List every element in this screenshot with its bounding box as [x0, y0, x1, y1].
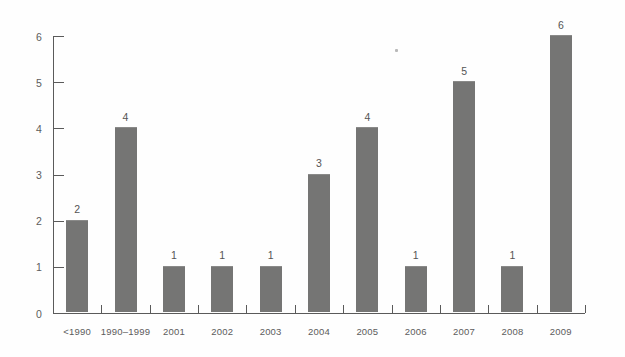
bar-value-label: 4	[123, 112, 129, 123]
bar[interactable]	[260, 266, 282, 312]
x-axis-tick	[198, 305, 199, 313]
x-axis-category-label: 2005	[356, 326, 378, 337]
bar-group[interactable]: 1	[163, 266, 185, 312]
bar-group[interactable]: 1	[501, 266, 523, 312]
x-axis-tick	[488, 305, 489, 313]
bar[interactable]	[163, 266, 185, 312]
x-axis-tick	[150, 305, 151, 313]
y-axis-tick-label-2: 2	[36, 215, 42, 227]
scan-speck-artifact	[395, 49, 398, 52]
bar[interactable]	[356, 127, 378, 312]
y-axis-tick-label-6: 6	[36, 31, 42, 43]
x-axis-category-label: 2001	[163, 326, 185, 337]
bar-group[interactable]: 2	[66, 220, 88, 312]
bar-group[interactable]: 1	[260, 266, 282, 312]
bar-value-label: 1	[219, 250, 225, 261]
bar-group[interactable]: 3	[308, 174, 330, 313]
y-axis-tick-label-3: 3	[36, 169, 42, 181]
x-axis-tick	[101, 305, 102, 313]
x-axis-category-label: 2009	[550, 326, 572, 337]
y-axis-tick-1: 1	[54, 267, 64, 268]
y-axis-tick-2: 2	[54, 221, 64, 222]
y-axis-tick-label-0: 0	[36, 308, 42, 320]
x-axis-category-label: 2002	[211, 326, 233, 337]
bar[interactable]	[115, 127, 137, 312]
bar-group[interactable]: 4	[115, 127, 137, 312]
x-axis-tick	[392, 305, 393, 313]
y-axis-tick-3: 3	[54, 175, 64, 176]
x-axis-tick	[295, 305, 296, 313]
plot-area: 6 5 4 3 2 1 0 24111341516	[53, 36, 585, 313]
bar[interactable]	[66, 220, 88, 312]
bar-group[interactable]: 5	[453, 81, 475, 312]
x-axis-category-label: 2008	[501, 326, 523, 337]
bar[interactable]	[550, 35, 572, 312]
bar-value-label: 1	[171, 250, 177, 261]
bar-value-label: 1	[413, 250, 419, 261]
x-axis-category-label: 2003	[260, 326, 282, 337]
y-axis-tick-label-5: 5	[36, 77, 42, 89]
x-axis-category-label: 1990–1999	[101, 326, 150, 337]
x-axis-tick	[246, 305, 247, 313]
x-axis-category-label: <1990	[63, 326, 91, 337]
x-axis-category-label: 2006	[405, 326, 427, 337]
x-axis-tick	[440, 305, 441, 313]
bar-chart-figure: 6 5 4 3 2 1 0 24111341516 <19901990–1999…	[0, 0, 625, 357]
bar[interactable]	[501, 266, 523, 312]
bar-value-label: 4	[364, 112, 370, 123]
bar[interactable]	[211, 266, 233, 312]
bar-value-label: 6	[558, 20, 564, 31]
x-axis-tick	[537, 305, 538, 313]
bar-value-label: 2	[74, 204, 80, 215]
bar-group[interactable]: 1	[211, 266, 233, 312]
x-axis-category-label: 2007	[453, 326, 475, 337]
bar-value-label: 5	[461, 66, 467, 77]
x-axis-line	[53, 313, 585, 314]
bar-group[interactable]: 1	[405, 266, 427, 312]
y-axis-tick-5: 5	[54, 82, 64, 83]
bar-value-label: 3	[316, 158, 322, 169]
y-axis-tick-label-1: 1	[36, 261, 42, 273]
x-axis-tick	[585, 305, 586, 313]
y-axis-tick-4: 4	[54, 128, 64, 129]
x-axis-tick	[343, 305, 344, 313]
bar[interactable]	[453, 81, 475, 312]
bar-group[interactable]: 4	[356, 127, 378, 312]
bar[interactable]	[405, 266, 427, 312]
bar-value-label: 1	[268, 250, 274, 261]
y-axis-tick-label-4: 4	[36, 123, 42, 135]
bar[interactable]	[308, 174, 330, 313]
bar-group[interactable]: 6	[550, 35, 572, 312]
y-axis-tick-6: 6	[54, 36, 64, 37]
bar-value-label: 1	[510, 250, 516, 261]
x-axis-category-label: 2004	[308, 326, 330, 337]
